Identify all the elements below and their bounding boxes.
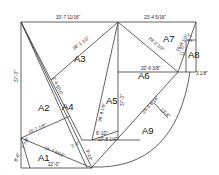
dim-a8-side: 3'-7" xyxy=(188,32,193,42)
floor-plan-diagram: A1 A2 A3 A4 A5 A6 A7 A8 A9 33'-7 11/16" … xyxy=(0,0,219,175)
area-label-a3: A3 xyxy=(74,53,86,64)
area-label-a2: A2 xyxy=(38,102,50,113)
dim-a4-lower: 3'-10" xyxy=(85,149,93,162)
dim-a9-sag: 13'-8" xyxy=(159,107,171,119)
dim-a9-chord: 25'-3 9/16" xyxy=(141,95,160,115)
dim-left-side: 37'-3" xyxy=(14,70,19,82)
area-label-a4: A4 xyxy=(62,101,74,112)
dim-a5-right: 37'-3" xyxy=(120,94,125,106)
dim-a1-left: 8'-6" xyxy=(13,152,21,163)
dim-center-b: 10'-8 1/4" xyxy=(98,137,118,142)
dim-top-right: 23'-4 5/16" xyxy=(144,15,166,20)
left-region-lines xyxy=(21,22,118,168)
area-label-a8: A8 xyxy=(188,49,200,60)
dim-a8-vert: 11'-8" xyxy=(180,44,185,56)
area-label-a6: A6 xyxy=(138,70,150,81)
dim-a1-bottom: 22'-0" xyxy=(48,162,60,167)
dim-top-left: 33'-7 11/16" xyxy=(56,15,81,20)
area-label-a9: A9 xyxy=(142,125,154,136)
area-label-a5: A5 xyxy=(106,95,118,106)
area-label-a7: A7 xyxy=(163,33,175,44)
dim-a6-horiz: 20'-6 3/8" xyxy=(141,66,161,71)
dim-a1-short: 7 7/8" xyxy=(21,136,30,149)
dim-a2-diag: 15'-7 7/8" xyxy=(27,122,47,135)
dim-a5-diag: 36'-9 1/8" xyxy=(97,102,106,122)
dim-a8-small: 3 1/8" xyxy=(196,71,208,76)
dimension-labels: 33'-7 11/16" 23'-4 5/16" 37'-3" 26'-1 1/… xyxy=(13,15,208,167)
area-labels: A1 A2 A3 A4 A5 A6 A7 A8 A9 xyxy=(38,33,200,163)
dim-center-a: 8'-10" xyxy=(96,131,108,136)
